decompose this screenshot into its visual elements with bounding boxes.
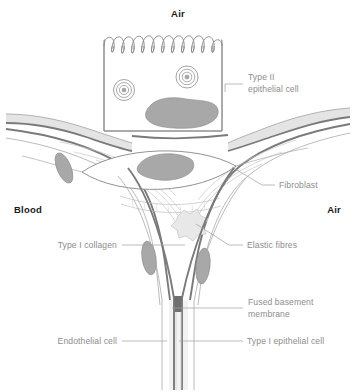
region-label-air-right: Air (327, 204, 341, 215)
callout-line: membrane (248, 309, 290, 319)
callout-line: Endothelial cell (58, 336, 117, 346)
callout-line: Fibroblast (279, 180, 318, 190)
callout-line: Type I collagen (58, 240, 117, 250)
lamellar-body-right (176, 66, 198, 88)
capillary-lumen (169, 300, 188, 390)
fused-membrane-node (174, 296, 182, 312)
callout-line: Fused basement (248, 297, 314, 307)
callout-line: epithelial cell (248, 84, 299, 94)
callout-label-elastic-fibres: Elastic fibres (247, 240, 297, 250)
callout-label-endothelial-cell: Endothelial cell (58, 336, 117, 346)
callout-label-fibroblast: Fibroblast (279, 180, 318, 190)
type-ii-epithelial-cell (104, 33, 222, 131)
region-label-air-top: Air (171, 8, 185, 19)
region-label-blood-left: Blood (14, 204, 42, 215)
lamellar-body-left (114, 80, 135, 101)
diagram-canvas: AirBloodAir Type IIepithelial cellFibrob… (0, 0, 355, 392)
callout-label-type-i-collagen: Type I collagen (58, 240, 117, 250)
callout-line: Type II (248, 72, 275, 82)
type-ii-nucleus (146, 98, 219, 129)
alveolar-wall-figure: AirBloodAir Type IIepithelial cellFibrob… (0, 0, 355, 392)
callout-line: Elastic fibres (247, 240, 297, 250)
callout-label-type-i-epithelial-cell: Type I epithelial cell (247, 336, 324, 346)
callout-line: Type I epithelial cell (247, 336, 324, 346)
